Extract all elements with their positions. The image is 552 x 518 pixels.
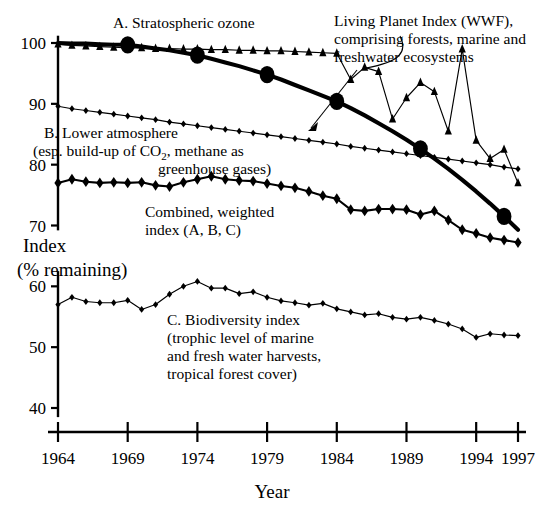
- data-point-marker: [390, 314, 395, 321]
- annot-co2-prefix: (esp. build-up of CO: [33, 142, 161, 160]
- data-point-marker: [460, 326, 465, 333]
- annotation-stratospheric-ozone: A. Stratospheric ozone: [113, 14, 255, 31]
- data-point-marker: [292, 299, 297, 306]
- leader-arrow-lpi: [311, 70, 357, 128]
- x-axis-tick-label-1989: 1989: [389, 449, 423, 468]
- x-axis-tick-label-1997: 1997: [501, 449, 536, 468]
- data-point-marker: [305, 186, 312, 197]
- data-point-marker: [69, 105, 74, 112]
- data-point-marker: [166, 181, 173, 192]
- data-point-marker: [487, 232, 494, 243]
- data-point-marker: [237, 290, 242, 297]
- data-point-marker: [125, 113, 130, 120]
- data-point-marker: [306, 137, 311, 144]
- annotation-lower-atmosphere: B. Lower atmosphere (esp. build-up of CO…: [33, 124, 271, 178]
- data-point-marker: [263, 46, 270, 54]
- y-axis-tick-label-100: 100: [21, 34, 47, 53]
- data-point-marker: [362, 312, 367, 319]
- annotation-combined-line1: Combined, weighted: [145, 203, 274, 220]
- data-point-marker: [501, 164, 506, 171]
- data-point-marker: [348, 308, 353, 315]
- environmental-index-line-chart: 1009080706050401964196919741979198419891…: [0, 0, 552, 518]
- x-axis-tick-label-1979: 1979: [250, 449, 284, 468]
- annotation-lower-atmosphere-line1: B. Lower atmosphere: [44, 124, 178, 141]
- data-point-marker: [251, 130, 256, 137]
- lpi-highlight-dot: [120, 36, 135, 53]
- lpi-highlight-dot: [497, 208, 512, 225]
- data-point-marker: [125, 297, 130, 304]
- lpi-highlight-dot: [413, 140, 428, 157]
- data-point-marker: [124, 178, 131, 189]
- y-axis-tick-label-90: 90: [29, 95, 46, 114]
- data-point-marker: [110, 177, 117, 188]
- data-point-marker: [209, 285, 214, 292]
- x-axis-tick-label-1984: 1984: [320, 449, 355, 468]
- data-point-marker: [319, 190, 326, 201]
- data-point-marker: [389, 204, 396, 215]
- y-axis-title-line1: Index: [23, 235, 67, 256]
- data-point-marker: [82, 176, 89, 187]
- x-axis-tick-label-1994: 1994: [459, 449, 494, 468]
- data-point-marker: [403, 93, 410, 101]
- data-point-marker: [446, 321, 451, 328]
- data-point-marker: [445, 126, 452, 134]
- data-point-marker: [348, 143, 353, 150]
- data-point-marker: [473, 228, 480, 239]
- data-point-marker: [347, 204, 354, 215]
- data-point-marker: [139, 114, 144, 121]
- data-point-marker: [515, 332, 520, 339]
- data-point-marker: [473, 135, 480, 143]
- data-point-marker: [445, 215, 452, 226]
- data-point-marker: [305, 47, 312, 55]
- data-point-marker: [138, 177, 145, 188]
- data-point-marker: [291, 47, 298, 55]
- annotation-biodiversity-index: C. Biodiversity index (trophic level of …: [167, 311, 321, 383]
- data-point-marker: [390, 148, 395, 155]
- data-point-marker: [500, 144, 507, 152]
- data-point-marker: [278, 133, 283, 140]
- data-point-marker: [514, 237, 521, 248]
- annotation-biodiversity-line1: C. Biodiversity index: [167, 311, 300, 328]
- data-point-marker: [111, 111, 116, 118]
- data-point-marker: [431, 87, 438, 95]
- data-point-marker: [209, 124, 214, 131]
- y-axis-title-line2: (% remaining): [17, 259, 127, 281]
- data-point-marker: [417, 78, 424, 86]
- data-point-marker: [181, 283, 186, 290]
- data-point-marker: [306, 302, 311, 309]
- data-point-marker: [152, 180, 159, 191]
- data-point-marker: [500, 235, 507, 246]
- data-point-marker: [250, 45, 257, 53]
- data-point-marker: [488, 161, 493, 168]
- data-point-marker: [83, 298, 88, 305]
- y-axis-tick-label-60: 60: [29, 277, 46, 296]
- data-point-marker: [69, 294, 74, 301]
- data-point-marker: [97, 109, 102, 116]
- data-point-marker: [111, 299, 116, 306]
- data-point-marker: [263, 178, 270, 189]
- data-point-marker: [153, 116, 158, 123]
- series-layer: [54, 36, 521, 341]
- y-axis-tick-label-70: 70: [29, 217, 46, 236]
- data-point-marker: [515, 166, 520, 173]
- x-axis-tick-label-1964: 1964: [41, 449, 76, 468]
- annotation-combined-line2: index (A, B, C): [145, 221, 241, 239]
- data-point-marker: [501, 332, 506, 339]
- data-point-marker: [320, 139, 325, 146]
- data-point-marker: [488, 330, 493, 337]
- x-axis-tick-label-1969: 1969: [111, 449, 145, 468]
- data-point-marker: [208, 45, 215, 53]
- data-point-marker: [167, 291, 172, 298]
- annotation-living-planet-index: Living Planet Index (WWF), comprising fo…: [334, 12, 526, 65]
- chart-container: 1009080706050401964196919741979198419891…: [0, 0, 552, 518]
- data-point-marker: [361, 206, 368, 217]
- data-point-marker: [334, 305, 339, 312]
- x-axis-title: Year: [254, 481, 290, 502]
- data-point-marker: [319, 48, 326, 56]
- data-point-marker: [278, 298, 283, 305]
- data-point-marker: [459, 224, 466, 235]
- data-point-marker: [474, 334, 479, 341]
- data-point-marker: [195, 122, 200, 129]
- data-point-marker: [236, 45, 243, 53]
- data-point-marker: [403, 204, 410, 215]
